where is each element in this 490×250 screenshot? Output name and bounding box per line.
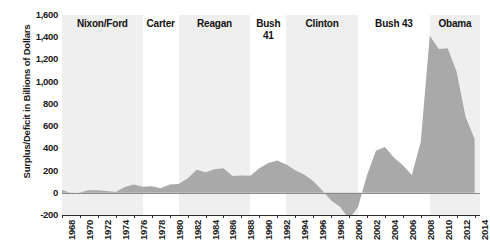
deficit-area-path xyxy=(62,36,475,215)
x-tick-label: 2006 xyxy=(407,220,418,240)
x-tick-mark xyxy=(223,215,224,218)
y-tick-label: 800 xyxy=(43,99,58,109)
x-tick-label: 1986 xyxy=(227,220,238,240)
plot-area: Nixon/FordCarterReaganBush 41ClintonBush… xyxy=(62,15,480,215)
x-tick-label: 1990 xyxy=(263,220,274,240)
x-tick-label: 1978 xyxy=(156,220,167,240)
x-tick-mark xyxy=(457,215,458,218)
x-tick-mark xyxy=(403,215,404,218)
x-tick-label: 1984 xyxy=(210,220,221,240)
y-tick-label: 0 xyxy=(53,188,58,198)
x-tick-mark xyxy=(259,215,260,218)
x-tick-label: 2000 xyxy=(353,220,364,240)
x-tick-label: 1972 xyxy=(102,220,113,240)
x-tick-label: 1998 xyxy=(335,220,346,240)
y-tick-label: 400 xyxy=(43,144,58,154)
x-tick-mark xyxy=(367,215,368,218)
x-tick-label: 2008 xyxy=(425,220,436,240)
x-tick-label: 1992 xyxy=(281,220,292,240)
x-tick-mark xyxy=(98,215,99,218)
x-tick-mark xyxy=(152,215,153,218)
x-tick-mark xyxy=(385,215,386,218)
x-tick-mark xyxy=(62,215,63,218)
x-tick-mark xyxy=(295,215,296,218)
x-tick-mark xyxy=(421,215,422,218)
x-tick-mark xyxy=(134,215,135,218)
x-tick-label: 1968 xyxy=(66,220,77,240)
x-tick-mark xyxy=(188,215,189,218)
deficit-area-series xyxy=(62,15,480,215)
era-band-label: Bush 43 xyxy=(358,18,430,30)
x-tick-label: 1996 xyxy=(317,220,328,240)
x-tick-mark xyxy=(116,215,117,218)
y-axis-tick-labels: 1,6001,4001,2001,0008006004002000-200 xyxy=(22,0,58,250)
x-tick-mark xyxy=(170,215,171,218)
x-tick-mark xyxy=(80,215,81,218)
y-tick-label: -200 xyxy=(40,210,58,220)
era-band-label: Bush 41 xyxy=(250,18,286,41)
y-tick-label: 600 xyxy=(43,121,58,131)
x-tick-label: 2004 xyxy=(389,220,400,240)
x-tick-mark xyxy=(331,215,332,218)
x-tick-mark xyxy=(241,215,242,218)
y-tick-label: 1,000 xyxy=(36,77,58,87)
era-band-label: Nixon/Ford xyxy=(62,18,143,30)
y-tick-label: 1,400 xyxy=(36,32,58,42)
x-tick-mark xyxy=(277,215,278,218)
x-tick-label: 2002 xyxy=(371,220,382,240)
x-tick-label: 2014 xyxy=(479,220,490,240)
x-tick-mark xyxy=(475,215,476,218)
era-band-label: Clinton xyxy=(286,18,358,30)
era-band-label: Obama xyxy=(430,18,480,30)
x-tick-mark xyxy=(349,215,350,218)
zero-baseline xyxy=(62,193,480,194)
x-tick-mark xyxy=(206,215,207,218)
y-tick-label: 1,200 xyxy=(36,55,58,65)
x-tick-label: 2012 xyxy=(461,220,472,240)
x-tick-label: 1974 xyxy=(120,220,131,240)
y-tick-label: 1,600 xyxy=(36,10,58,20)
x-tick-label: 1980 xyxy=(174,220,185,240)
x-tick-label: 1994 xyxy=(299,220,310,240)
era-band-label: Reagan xyxy=(179,18,251,30)
x-tick-label: 1970 xyxy=(84,220,95,240)
x-tick-mark xyxy=(439,215,440,218)
x-tick-label: 2010 xyxy=(443,220,454,240)
x-tick-mark xyxy=(313,215,314,218)
x-tick-label: 1982 xyxy=(192,220,203,240)
x-tick-label: 1976 xyxy=(138,220,149,240)
era-band-label: Carter xyxy=(143,18,179,30)
y-tick-label: 200 xyxy=(43,166,58,176)
x-axis-tick-labels: 1968197019721974197619781980198219841986… xyxy=(62,215,480,250)
x-tick-label: 1988 xyxy=(245,220,256,240)
